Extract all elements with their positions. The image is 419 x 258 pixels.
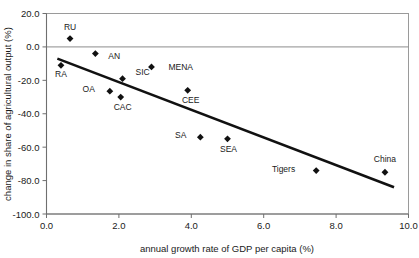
data-point-label: CEE bbox=[182, 95, 200, 105]
y-axis-title: change in share of agricultural output (… bbox=[2, 27, 13, 201]
x-tick-label: 10.0 bbox=[399, 220, 418, 231]
chart-background bbox=[0, 0, 419, 258]
data-point-label: SEA bbox=[220, 144, 237, 154]
data-point-label: CAC bbox=[114, 102, 132, 112]
data-point-label: RA bbox=[55, 69, 67, 79]
data-point-label: OA bbox=[83, 84, 96, 94]
y-tick-label: -60.0 bbox=[18, 142, 40, 153]
y-tick-label: 20.0 bbox=[21, 8, 40, 19]
data-point-label: Tigers bbox=[272, 164, 295, 174]
chart-canvas: 20.00.0-20.0-40.0-60.0-80.0-100.0 0.02.0… bbox=[0, 0, 419, 258]
data-point-label: SA bbox=[175, 130, 187, 140]
y-tick-label: 0.0 bbox=[26, 41, 39, 52]
y-tick-label: -80.0 bbox=[18, 175, 40, 186]
scatter-chart: 20.00.0-20.0-40.0-60.0-80.0-100.0 0.02.0… bbox=[0, 0, 419, 258]
x-tick-label: 6.0 bbox=[257, 220, 270, 231]
x-axis-title: annual growth rate of GDP per capita (%) bbox=[140, 243, 314, 254]
data-point-label: SIC bbox=[136, 67, 150, 77]
data-point-label: AN bbox=[108, 51, 120, 61]
x-tick-label: 8.0 bbox=[329, 220, 342, 231]
data-point-label: MENA bbox=[168, 62, 193, 72]
x-tick-label: 0.0 bbox=[40, 220, 53, 231]
y-tick-label: -40.0 bbox=[18, 108, 40, 119]
data-point-label: RU bbox=[64, 22, 76, 32]
y-tick-label: -20.0 bbox=[18, 75, 40, 86]
data-point-label: China bbox=[374, 154, 396, 164]
x-tick-label: 4.0 bbox=[185, 220, 198, 231]
x-tick-label: 2.0 bbox=[112, 220, 125, 231]
y-tick-label: -100.0 bbox=[13, 209, 40, 220]
